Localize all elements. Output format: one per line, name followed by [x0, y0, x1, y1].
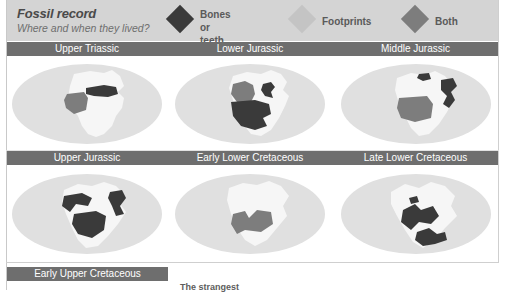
- period-label: Early Upper Cretaceous: [7, 267, 168, 281]
- map-panel-middle-jurassic: [333, 57, 498, 150]
- period-header-early-lower-cretaceous: Early Lower Cretaceous: [167, 151, 333, 165]
- period-label: Upper Jurassic: [7, 151, 167, 165]
- period-label: Late Lower Cretaceous: [333, 151, 498, 165]
- period-header-upper-jurassic: Upper Jurassic: [7, 151, 167, 165]
- diamond-icon: [166, 5, 194, 33]
- period-label: Middle Jurassic: [333, 42, 498, 56]
- period-header-late-lower-cretaceous: Late Lower Cretaceous: [333, 151, 498, 165]
- map-svg: [12, 174, 162, 254]
- period-header-middle-jurassic: Middle Jurassic: [333, 42, 498, 56]
- map-panel-early-lower-cretaceous: [167, 166, 333, 262]
- map-panel-upper-triassic: [7, 57, 167, 150]
- map-svg: [175, 64, 325, 144]
- map-svg: [12, 64, 162, 144]
- globe-early-lower-cretaceous: [175, 174, 325, 254]
- globe-upper-jurassic: [12, 174, 162, 254]
- region-both: [397, 96, 433, 122]
- legend-label-footprints: Footprints: [322, 5, 371, 28]
- period-label: Lower Jurassic: [167, 42, 333, 56]
- next-section-heading: The strangest: [180, 282, 239, 292]
- right-border-rule: [498, 0, 499, 262]
- bottom-border-rule: [6, 262, 499, 263]
- region-bones-or-teeth: [231, 100, 271, 130]
- map-panel-late-lower-cretaceous: [333, 166, 498, 262]
- map-panel-early-upper-cretaceous: [7, 282, 168, 290]
- map-svg: [341, 64, 491, 144]
- globe-middle-jurassic: [341, 64, 491, 144]
- globe-late-lower-cretaceous: [341, 174, 491, 254]
- legend-label-bones-or-teeth: Bones or teeth: [200, 5, 231, 47]
- diamond-icon: [288, 5, 316, 33]
- period-header-upper-triassic: Upper Triassic: [7, 42, 167, 56]
- figure-title: Fossil record: [17, 6, 96, 21]
- figure-header: Fossil record Where and when they lived?…: [7, 0, 498, 41]
- map-panel-upper-jurassic: [7, 166, 167, 262]
- period-label: Upper Triassic: [7, 42, 167, 56]
- globe-upper-triassic: [12, 64, 162, 144]
- map-svg: [341, 174, 491, 254]
- period-label: Early Lower Cretaceous: [167, 151, 333, 165]
- map-panel-lower-jurassic: [167, 57, 333, 150]
- globe-lower-jurassic: [175, 64, 325, 144]
- legend-label-both: Both: [435, 5, 458, 28]
- map-svg: [175, 174, 325, 254]
- figure-subtitle: Where and when they lived?: [17, 22, 150, 34]
- diamond-icon: [401, 5, 429, 33]
- period-header-early-upper-cretaceous: Early Upper Cretaceous: [7, 267, 168, 281]
- period-header-lower-jurassic: Lower Jurassic: [167, 42, 333, 56]
